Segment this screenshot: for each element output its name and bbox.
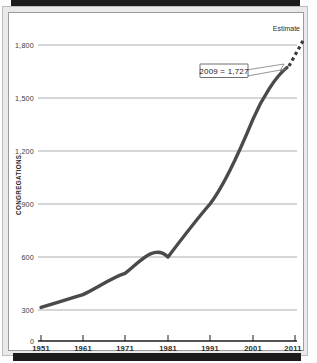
line-chart-svg: 1,800 1,500 1,200 900 600 300 0 CONGREGA…	[8, 12, 304, 351]
xtick-label-2011: 2011	[284, 344, 302, 351]
xtick-label-1961: 1961	[74, 344, 92, 351]
xtick-label-1981: 1981	[159, 344, 177, 351]
chart-page: 1,800 1,500 1,200 900 600 300 0 CONGREGA…	[0, 0, 317, 363]
xtick-label-1991: 1991	[201, 344, 219, 351]
ytick-label-600: 600	[21, 253, 34, 262]
xtick-label-2001: 2001	[244, 344, 262, 351]
congregations-line	[41, 68, 287, 308]
ytick-label-1800: 1,800	[15, 41, 34, 50]
xtick-label-1951: 1951	[32, 344, 50, 351]
ytick-label-1500: 1,500	[15, 94, 34, 103]
callout-label: 2009 = 1,727	[199, 67, 249, 76]
bottom-decorative-band	[13, 353, 301, 361]
gridlines	[38, 45, 297, 310]
ytick-label-1200: 1,200	[15, 147, 34, 156]
ytick-label-900: 900	[21, 200, 34, 209]
plot-area: 1,800 1,500 1,200 900 600 300 0 CONGREGA…	[8, 12, 304, 351]
y-axis-title: CONGREGATIONS	[15, 155, 22, 215]
x-axis-ticks	[41, 335, 295, 341]
ytick-label-300: 300	[21, 306, 34, 315]
estimate-dashed-line	[289, 39, 304, 66]
xtick-label-1971: 1971	[116, 344, 134, 351]
estimate-label: Estimate	[273, 25, 300, 32]
